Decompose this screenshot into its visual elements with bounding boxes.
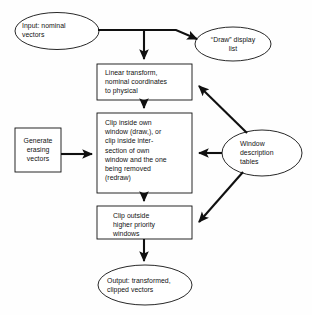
node-shape-input-vectors (15, 13, 99, 50)
node-shape-clip-inside (97, 113, 192, 193)
flowchart-canvas (0, 0, 312, 315)
edge-input-to-draw (98, 30, 197, 39)
edge-window-tables-to-linear-transform (199, 86, 247, 133)
edge-window-tables-to-clip-outside (199, 172, 243, 222)
node-shape-generate-erasing (15, 128, 61, 172)
node-shape-draw-display-list (195, 27, 271, 61)
node-shape-linear-transform (97, 64, 192, 100)
node-shape-window-tables (222, 130, 302, 176)
node-shape-clip-outside (97, 206, 192, 239)
node-shape-output-vectors (98, 265, 192, 305)
flowchart-figure: Input: nominal vectors “Draw” display li… (0, 0, 312, 315)
